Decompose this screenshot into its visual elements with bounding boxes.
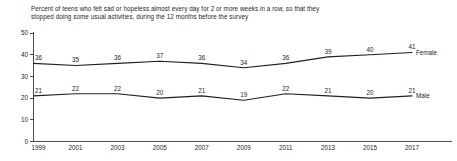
data-point-label: 35: [72, 56, 80, 63]
data-point-label: 21: [408, 87, 416, 94]
data-point-label: 37: [156, 52, 164, 59]
data-point-label: 21: [324, 87, 332, 94]
data-point-label: 22: [114, 85, 122, 92]
data-point-label: 20: [156, 89, 164, 96]
y-axis: 01020304050: [21, 29, 34, 145]
x-tick-label: 2013: [321, 144, 336, 151]
series-line-female: [34, 53, 413, 68]
x-tick-label: 2007: [195, 144, 210, 151]
data-point-label: 20: [366, 89, 374, 96]
chart-container: Percent of teens who felt sad or hopeles…: [0, 0, 457, 161]
data-point-labels-layer: 3635363736343639404121222220211922212021: [35, 43, 416, 98]
data-point-label: 36: [282, 54, 290, 61]
y-tick-label: 20: [21, 94, 29, 101]
data-point-label: 34: [240, 59, 248, 66]
series-legend-label-female: Female: [416, 49, 437, 56]
y-tick-label: 40: [21, 51, 29, 58]
data-point-label: 22: [282, 85, 290, 92]
x-axis-tick-labels: 1999200120032005200720092011201320152017: [32, 144, 420, 151]
series-legend-layer: FemaleMale: [416, 49, 437, 99]
x-tick-label: 2003: [111, 144, 126, 151]
y-tick-label: 0: [24, 138, 28, 145]
y-tick-label: 50: [21, 29, 29, 36]
x-tick-label: 2017: [405, 144, 420, 151]
data-point-label: 41: [408, 43, 416, 50]
data-point-label: 36: [35, 54, 43, 61]
data-point-label: 21: [198, 87, 206, 94]
y-axis-ticks: [30, 33, 34, 142]
y-tick-label: 30: [21, 73, 29, 80]
data-point-label: 39: [324, 48, 332, 55]
data-point-label: 36: [114, 54, 122, 61]
line-chart-plot: 01020304050 1999200120032005200720092011…: [0, 0, 457, 161]
x-tick-label: 2011: [279, 144, 293, 151]
y-tick-label: 10: [21, 116, 29, 123]
data-point-label: 36: [198, 54, 206, 61]
data-point-label: 22: [72, 85, 80, 92]
x-tick-label: 2005: [153, 144, 168, 151]
data-point-label: 19: [240, 91, 248, 98]
x-tick-label: 2001: [69, 144, 84, 151]
x-tick-label: 1999: [32, 144, 47, 151]
x-tick-label: 2015: [363, 144, 378, 151]
data-point-label: 40: [366, 46, 374, 53]
series-legend-label-male: Male: [416, 92, 430, 99]
series-line-male: [34, 94, 413, 101]
data-point-label: 21: [35, 87, 43, 94]
x-axis: 1999200120032005200720092011201320152017: [32, 142, 453, 152]
y-axis-tick-labels: 01020304050: [21, 29, 29, 145]
x-tick-label: 2009: [237, 144, 252, 151]
data-series-layer: [34, 53, 413, 101]
